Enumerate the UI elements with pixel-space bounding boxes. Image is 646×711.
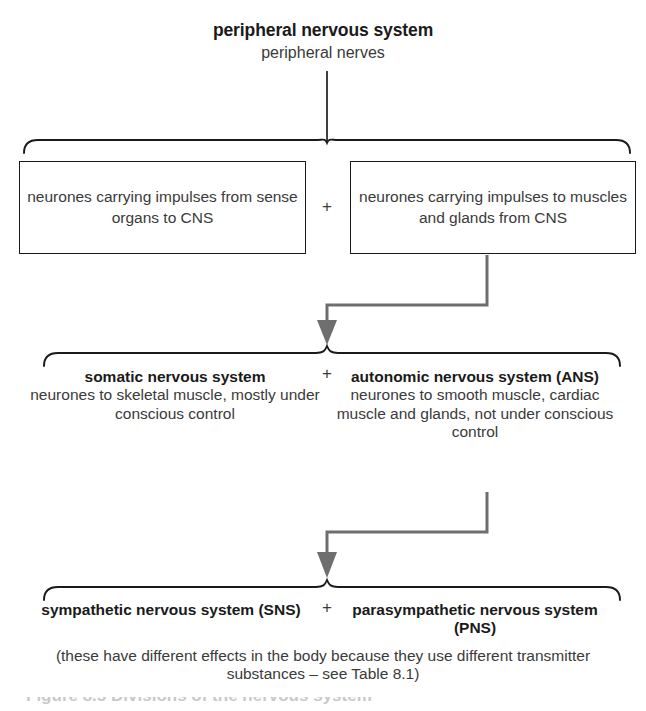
somatic-body: neurones to skeletal muscle, mostly unde…	[30, 386, 320, 423]
heading-title: peripheral nervous system	[0, 20, 646, 41]
box-motor-label: neurones carrying impulses to muscles an…	[351, 187, 635, 227]
sympathetic-heading: sympathetic nervous system (SNS)	[26, 601, 316, 619]
somatic-heading: somatic nervous system	[30, 368, 320, 386]
plus-symbol-level1: +	[312, 197, 342, 217]
arrow-ans-to-level3	[327, 492, 487, 556]
level3-note: (these have different effects in the bod…	[23, 647, 623, 684]
autonomic-heading: autonomic nervous system (ANS)	[330, 368, 620, 386]
figure-heading: peripheral nervous system peripheral ner…	[0, 20, 646, 63]
arrowhead-level2	[317, 320, 337, 345]
clipped-figure-caption-text: Figure 8.5 Divisions of the nervous syst…	[26, 697, 626, 706]
box-sensory-label: neurones carrying impulses from sense or…	[20, 187, 305, 227]
clipped-figure-caption: Figure 8.5 Divisions of the nervous syst…	[26, 697, 626, 711]
box-sensory-neurones: neurones carrying impulses from sense or…	[19, 161, 306, 254]
brace-level3	[44, 580, 620, 600]
autonomic-body: neurones to smooth muscle, cardiac muscl…	[330, 386, 620, 441]
box-motor-neurones: neurones carrying impulses to muscles an…	[350, 161, 636, 254]
group-parasympathetic-nervous-system: parasympathetic nervous system (PNS)	[330, 601, 620, 638]
heading-subtitle: peripheral nerves	[0, 44, 646, 63]
group-autonomic-nervous-system: autonomic nervous system (ANS) neurones …	[330, 368, 620, 441]
group-somatic-nervous-system: somatic nervous system neurones to skele…	[30, 368, 320, 423]
arrow-motor-to-level2	[327, 255, 487, 326]
arrowhead-level3	[317, 552, 337, 578]
brace-level2	[44, 346, 620, 366]
group-sympathetic-nervous-system: sympathetic nervous system (SNS)	[26, 601, 316, 619]
brace-level1	[24, 140, 630, 153]
parasympathetic-heading: parasympathetic nervous system (PNS)	[330, 601, 620, 638]
